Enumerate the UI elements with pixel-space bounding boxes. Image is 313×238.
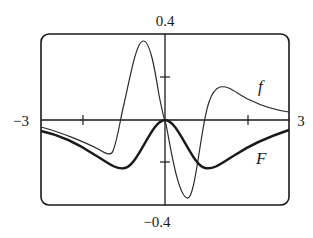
series-f-label: f bbox=[258, 77, 265, 96]
x-min-label: −3 bbox=[13, 113, 29, 129]
series-F-label: F bbox=[255, 149, 267, 168]
chart: 0.4 −0.4 −3 3 f F bbox=[0, 0, 313, 238]
x-max-label: 3 bbox=[297, 113, 305, 129]
y-min-label: −0.4 bbox=[143, 214, 171, 230]
y-max-label: 0.4 bbox=[156, 13, 175, 29]
